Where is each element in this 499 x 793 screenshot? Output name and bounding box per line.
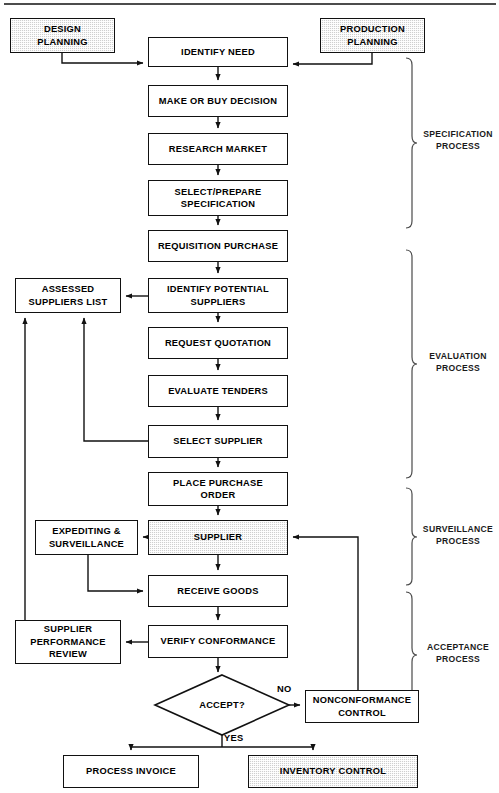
node-place-purchase-order[interactable]: PLACE PURCHASE ORDER <box>148 472 288 506</box>
node-production-planning-label: PRODUCTION PLANNING <box>337 23 408 48</box>
node-accept-decision[interactable]: ACCEPT? <box>155 675 289 735</box>
node-select-supplier[interactable]: SELECT SUPPLIER <box>148 425 288 458</box>
brace-specification-process <box>406 58 417 228</box>
node-assessed-suppliers-list-label: ASSESSED SUPPLIERS LIST <box>26 283 111 308</box>
node-receive-goods[interactable]: RECEIVE GOODS <box>148 575 288 607</box>
node-receive-goods-label: RECEIVE GOODS <box>174 585 261 598</box>
node-make-or-buy-decision[interactable]: MAKE OR BUY DECISION <box>148 85 288 117</box>
node-accept-decision-label: ACCEPT? <box>199 700 245 710</box>
group-label-acceptance-process: ACCEPTANCE PROCESS <box>420 641 496 665</box>
brace-evaluation-process <box>406 250 417 478</box>
process-group-braces <box>406 58 417 718</box>
group-label-specification-process: SPECIFICATION PROCESS <box>420 128 496 152</box>
node-verify-conformance-label: VERIFY CONFORMANCE <box>158 635 279 648</box>
node-identify-need-label: IDENTIFY NEED <box>178 46 258 59</box>
node-supplier-label: SUPPLIER <box>191 531 246 544</box>
edge-production-planning-to-identify-need <box>293 53 372 64</box>
node-select-prepare-specification[interactable]: SELECT/PREPARE SPECIFICATION <box>148 180 288 216</box>
node-request-quotation[interactable]: REQUEST QUOTATION <box>148 327 288 359</box>
group-label-evaluation-process: EVALUATION PROCESS <box>420 350 496 374</box>
edge-label-yes: YES <box>224 733 243 743</box>
node-verify-conformance[interactable]: VERIFY CONFORMANCE <box>148 625 288 658</box>
node-nonconformance-control[interactable]: NONCONFORMANCE CONTROL <box>305 690 419 723</box>
node-process-invoice[interactable]: PROCESS INVOICE <box>63 755 199 788</box>
flowchart-page: DESIGN PLANNING PRODUCTION PLANNING IDEN… <box>0 0 499 793</box>
node-design-planning-label: DESIGN PLANNING <box>34 23 91 48</box>
node-assessed-suppliers-list[interactable]: ASSESSED SUPPLIERS LIST <box>15 278 121 313</box>
node-select-prepare-specification-label: SELECT/PREPARE SPECIFICATION <box>171 186 264 211</box>
node-expediting-surveillance-label: EXPEDITING & SURVEILLANCE <box>46 525 127 550</box>
edge-nonconformance-control-to-supplier <box>293 537 358 690</box>
group-label-surveillance-process: SURVEILLANCE PROCESS <box>418 523 498 547</box>
node-expediting-surveillance[interactable]: EXPEDITING & SURVEILLANCE <box>35 520 138 555</box>
node-supplier[interactable]: SUPPLIER <box>148 520 288 555</box>
node-supplier-performance-review[interactable]: SUPPLIER PERFORMANCE REVIEW <box>15 620 121 664</box>
edge-expediting-surveillance-to-receive-goods <box>88 555 143 591</box>
node-evaluate-tenders-label: EVALUATE TENDERS <box>165 385 271 398</box>
node-nonconformance-control-label: NONCONFORMANCE CONTROL <box>310 694 415 719</box>
node-research-market-label: RESEARCH MARKET <box>166 143 270 156</box>
edge-label-no: NO <box>277 684 291 694</box>
node-evaluate-tenders[interactable]: EVALUATE TENDERS <box>148 375 288 407</box>
node-place-purchase-order-label: PLACE PURCHASE ORDER <box>170 477 266 502</box>
node-design-planning[interactable]: DESIGN PLANNING <box>10 18 115 53</box>
node-process-invoice-label: PROCESS INVOICE <box>83 765 179 778</box>
edge-design-planning-to-identify-need <box>62 53 143 63</box>
node-request-quotation-label: REQUEST QUOTATION <box>162 337 274 350</box>
node-requisition-purchase[interactable]: REQUISITION PURCHASE <box>148 230 288 262</box>
node-identify-potential-suppliers-label: IDENTIFY POTENTIAL SUPPLIERS <box>164 283 272 308</box>
node-research-market[interactable]: RESEARCH MARKET <box>148 133 288 165</box>
node-requisition-purchase-label: REQUISITION PURCHASE <box>155 240 281 253</box>
node-select-supplier-label: SELECT SUPPLIER <box>170 435 266 448</box>
node-supplier-performance-review-label: SUPPLIER PERFORMANCE REVIEW <box>27 623 109 661</box>
node-production-planning[interactable]: PRODUCTION PLANNING <box>320 18 425 53</box>
node-inventory-control-label: INVENTORY CONTROL <box>277 765 389 778</box>
node-identify-need[interactable]: IDENTIFY NEED <box>148 37 288 67</box>
node-make-or-buy-decision-label: MAKE OR BUY DECISION <box>156 95 280 108</box>
brace-surveillance-process <box>406 488 417 585</box>
edge-select-supplier-to-assessed-suppliers <box>84 318 148 441</box>
node-inventory-control[interactable]: INVENTORY CONTROL <box>248 755 418 788</box>
node-identify-potential-suppliers[interactable]: IDENTIFY POTENTIAL SUPPLIERS <box>148 278 288 313</box>
